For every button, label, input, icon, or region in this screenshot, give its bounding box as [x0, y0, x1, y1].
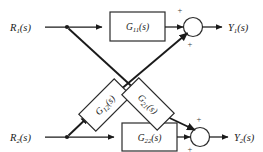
sum2-plus-bottom: + [188, 144, 193, 152]
junction-dot-r1 [65, 25, 69, 29]
output-label-y2: Y2(s) [234, 132, 255, 144]
sum1-plus-top: + [178, 5, 183, 15]
wire-g12-to-sum1 [113, 33, 188, 96]
input-label-r1: R1(s) [9, 22, 31, 34]
block-diagram: R1(s) R2(s) Y1(s) Y2(s) G11(s) G22(s) G1… [0, 0, 263, 152]
sum1-plus-bottom: + [188, 39, 193, 49]
sum2-plus-top: + [197, 114, 202, 124]
summing-junction-2 [191, 128, 210, 147]
input-label-r2: R2(s) [9, 132, 31, 144]
junction-dot-r2 [65, 135, 69, 139]
output-label-y1: Y1(s) [228, 22, 249, 34]
diagram-canvas: R1(s) R2(s) Y1(s) Y2(s) G11(s) G22(s) G1… [0, 0, 263, 152]
